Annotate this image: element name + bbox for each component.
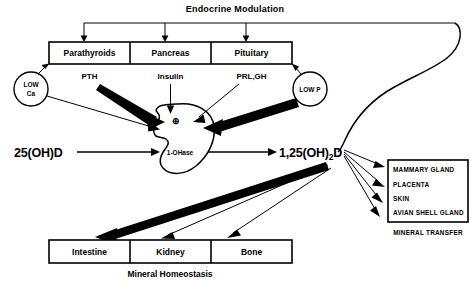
bus-arrowhead-parathyroids <box>81 36 88 43</box>
mineral-transfer-caption: MINERAL TRANSFER <box>393 229 463 236</box>
kidney-shape <box>154 104 215 174</box>
metabolite-125-tail: D <box>333 146 342 160</box>
mineral-transfer-item-placenta: PLACENTA <box>393 181 429 188</box>
organ-label-intestine: Intestine <box>72 247 107 257</box>
arrow-prl-gh-to-kidney <box>193 84 239 123</box>
organ-label-kidney: Kidney <box>156 247 185 257</box>
endocrine-modulation-bus <box>81 23 455 42</box>
diagram-title: Endocrine Modulation <box>186 4 285 14</box>
stimulus-low-ca: LOW Ca <box>14 64 50 107</box>
hormone-label-insulin: Insulin <box>158 72 184 81</box>
target-organ-boxes: Intestine Kidney Bone <box>49 240 292 263</box>
low-ca-label-line1: LOW <box>23 81 39 88</box>
arrow-enzyme-to-125ohd <box>208 148 277 156</box>
mineral-transfer-item-avian-shell-gland: AVIAN SHELL GLAND <box>393 209 464 216</box>
arrow-125ohd-to-kidney-organ <box>161 165 328 239</box>
mineral-transfer-box: MAMMARY GLAND PLACENTA SKIN AVIAN SHELL … <box>388 160 468 236</box>
arrow-pth-to-kidney <box>96 84 165 130</box>
metabolite-125-oh-2-d: 1,25(OH)2D <box>279 146 342 162</box>
organ-label-bone: Bone <box>241 247 263 257</box>
stimulus-low-p: LOW P <box>292 64 328 107</box>
mineral-transfer-item-skin: SKIN <box>393 195 409 202</box>
low-p-label-line1: LOW P <box>299 86 321 93</box>
gland-label-pancreas: Pancreas <box>152 48 190 58</box>
diagram-canvas: Endocrine Modulation Parathyroids Pancre… <box>0 0 471 281</box>
gland-label-parathyroids: Parathyroids <box>64 48 116 58</box>
arrow-low-p-to-kidney <box>203 98 299 136</box>
bus-arrowhead-pituitary <box>243 36 250 43</box>
low-ca-label-line2: Ca <box>27 90 36 97</box>
metabolite-125-main: 1,25(OH) <box>279 146 329 160</box>
plus-node-symbol: ⊕ <box>172 116 180 126</box>
arrow-125ohd-to-intestine <box>95 162 329 245</box>
enzyme-label-1-ohase: 1-OHase <box>167 149 194 156</box>
feedback-loop-curve <box>338 23 460 152</box>
arrow-25ohd-to-enzyme <box>77 148 160 156</box>
metabolite-25-oh-d: 25(OH)D <box>14 146 63 160</box>
hormone-labels: PTH Insulin PRL,GH <box>82 72 267 81</box>
svg-text:1,25(OH)2D: 1,25(OH)2D <box>279 146 342 162</box>
low-ca-circle <box>14 72 48 106</box>
bus-arrowhead-pancreas <box>162 36 169 43</box>
hormone-label-pth: PTH <box>82 72 98 81</box>
hormone-label-prl-gh: PRL,GH <box>236 72 266 81</box>
arrows-to-mineral-transfer <box>344 150 385 217</box>
mineral-homeostasis-caption: Mineral Homeostasis <box>127 269 212 279</box>
low-ca-to-parathyroids-arrowhead <box>42 64 50 70</box>
mineral-transfer-item-mammary-gland: MAMMARY GLAND <box>393 166 455 173</box>
endocrine-gland-boxes: Parathyroids Pancreas Pituitary <box>49 42 292 64</box>
gland-label-pituitary: Pituitary <box>234 48 268 58</box>
endocrine-vitamin-d-diagram: Endocrine Modulation Parathyroids Pancre… <box>0 0 471 281</box>
